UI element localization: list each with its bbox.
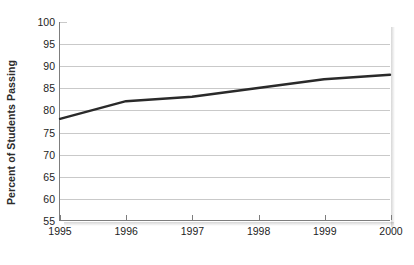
y-tick-label-80: 80: [43, 104, 55, 116]
y-tick-label-95: 95: [43, 38, 55, 50]
y-tick-label-90: 90: [43, 60, 55, 72]
y-tick-label-60: 60: [43, 193, 55, 205]
x-tick-label-1998: 1998: [247, 225, 270, 237]
data-line-series: [60, 22, 390, 220]
x-tick-label-1996: 1996: [115, 225, 138, 237]
x-tick-label-1997: 1997: [181, 225, 204, 237]
chart-figure: Percent of Students Passing 556065707580…: [0, 0, 414, 265]
x-tick-2000: [391, 215, 392, 220]
y-tick-label-85: 85: [43, 82, 55, 94]
figure-shadow-right: [391, 27, 395, 227]
series-polyline: [60, 75, 390, 119]
x-tick-label-2000: 2000: [379, 225, 402, 237]
x-tick-label-1995: 1995: [48, 225, 71, 237]
y-tick-label-65: 65: [43, 171, 55, 183]
plot-area: 556065707580859095100 199519961997199819…: [59, 22, 390, 221]
figure-shadow-bottom: [64, 222, 394, 226]
x-tick-label-1999: 1999: [313, 225, 336, 237]
y-axis-title: Percent of Students Passing: [0, 0, 22, 265]
y-tick-label-100: 100: [37, 16, 55, 28]
y-tick-label-70: 70: [43, 149, 55, 161]
y-tick-label-75: 75: [43, 127, 55, 139]
